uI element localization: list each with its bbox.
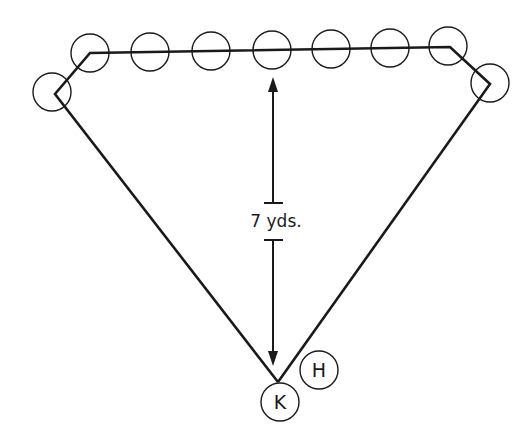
- kicker-label: K: [274, 391, 287, 413]
- holder-label: H: [312, 359, 326, 381]
- arrow-down-head: [268, 351, 278, 366]
- arrow-up-head: [268, 77, 278, 92]
- distance-label: 7 yds.: [250, 211, 301, 231]
- kick-formation-diagram: 7 yds. K H: [0, 0, 531, 442]
- player-circle: [33, 73, 71, 111]
- line-players: [33, 27, 509, 111]
